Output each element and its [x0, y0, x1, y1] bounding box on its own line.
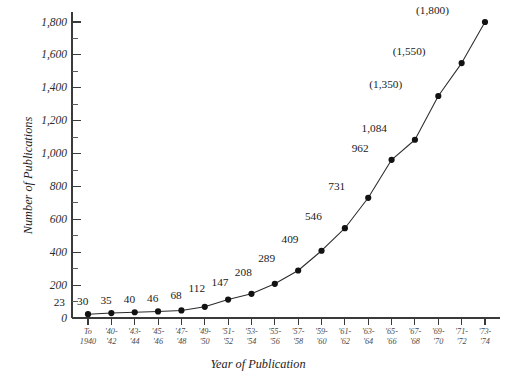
data-point-label: (1,800) [395, 4, 449, 16]
data-point-marker[interactable] [435, 93, 441, 99]
data-point-marker[interactable] [365, 195, 371, 201]
data-point-marker[interactable] [225, 296, 231, 302]
data-point-label: 1,084 [333, 122, 387, 134]
data-point-marker[interactable] [155, 308, 161, 314]
data-point-label: 289 [221, 252, 275, 264]
data-point-marker[interactable] [108, 310, 114, 316]
data-point-marker[interactable] [459, 60, 465, 66]
data-point-label: (1,350) [348, 78, 402, 90]
data-point-marker[interactable] [388, 157, 394, 163]
x-axis-title: Year of Publication [158, 357, 358, 372]
series-line [88, 22, 485, 314]
data-point-label: 409 [245, 233, 299, 245]
data-point-marker[interactable] [342, 225, 348, 231]
data-point-marker[interactable] [202, 304, 208, 310]
y-tick-label: 200 [0, 279, 67, 291]
data-point-label: 208 [198, 266, 252, 278]
data-point-label: 962 [315, 142, 369, 154]
data-point-marker[interactable] [272, 281, 278, 287]
data-point-marker[interactable] [295, 267, 301, 273]
data-point-marker[interactable] [248, 291, 254, 297]
y-tick-label: 1,600 [0, 48, 67, 60]
data-point-label: 546 [268, 210, 322, 222]
data-point-marker[interactable] [482, 19, 488, 25]
data-point-marker[interactable] [412, 137, 418, 143]
x-axis [72, 318, 500, 325]
y-tick-label: 1,800 [0, 16, 67, 28]
x-tick-label-line2: '74 [463, 337, 507, 347]
data-point-marker[interactable] [178, 307, 184, 313]
y-axis-title: Number of Publications [21, 96, 36, 256]
data-point-label: (1,550) [372, 45, 426, 57]
chart-figure: 02004006008001,0001,2001,4001,6001,800 T… [0, 0, 507, 385]
data-point-marker[interactable] [132, 309, 138, 315]
y-axis [72, 12, 81, 318]
data-point-marker[interactable] [85, 311, 91, 317]
y-tick-label: 0 [0, 312, 67, 324]
x-tick-label-line1: '73- [463, 327, 507, 337]
data-series [85, 19, 488, 317]
data-point-marker[interactable] [318, 248, 324, 254]
x-tick-label: '73-'74 [463, 327, 507, 346]
y-tick-label: 1,400 [0, 81, 67, 93]
data-point-label: 731 [291, 180, 345, 192]
